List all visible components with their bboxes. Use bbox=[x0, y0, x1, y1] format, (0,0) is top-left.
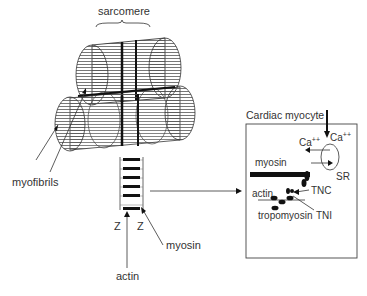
connector-arrow bbox=[150, 188, 242, 194]
tropomyosin-label: tropomyosin bbox=[258, 210, 312, 221]
sarcomere-brace bbox=[96, 20, 150, 27]
actin-arrow bbox=[124, 211, 130, 268]
myosin-label: myosin bbox=[166, 239, 201, 251]
myosin-arrow bbox=[141, 207, 163, 245]
myofibrils-label: myofibrils bbox=[12, 176, 59, 188]
inset-actin-label: actin bbox=[252, 188, 273, 199]
sr-label: SR bbox=[336, 171, 350, 182]
diagram-canvas: sarcomere myofibrils bbox=[0, 0, 367, 296]
sarcomere-ladder bbox=[120, 157, 143, 210]
tni-label: TNI bbox=[316, 210, 332, 221]
myofibril-cylinder-bottom bbox=[55, 86, 195, 151]
tnc-label: TNC bbox=[311, 185, 332, 196]
actin-label: actin bbox=[116, 270, 139, 282]
z-line-right-label: Z bbox=[137, 220, 144, 232]
inset-myosin-label: myosin bbox=[255, 157, 287, 168]
sarcomere-label: sarcomere bbox=[98, 5, 150, 17]
z-line-left-label: Z bbox=[114, 220, 121, 232]
inset-title: Cardiac myocyte bbox=[246, 109, 324, 121]
